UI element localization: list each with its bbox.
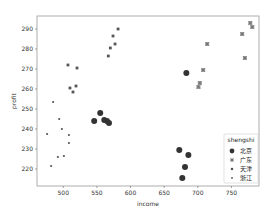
marker-dot — [50, 165, 52, 167]
y-tick-label: 220 — [22, 165, 34, 172]
x-axis-ticks: 500550600650700750 — [58, 186, 238, 196]
x-tick-label: 550 — [91, 189, 103, 196]
marker-circle — [97, 110, 103, 116]
y-axis-label: profit — [10, 92, 18, 109]
marker-small-square — [72, 91, 75, 94]
x-tick-label: 700 — [192, 189, 204, 196]
marker-circle — [185, 152, 191, 158]
marker-dot — [58, 118, 60, 120]
marker-circle — [230, 149, 235, 154]
marker-circle — [182, 164, 188, 170]
y-tick-label: 260 — [22, 85, 34, 92]
marker-dot — [52, 101, 54, 103]
y-tick-label: 290 — [22, 25, 34, 32]
x-axis-label: income — [137, 200, 159, 207]
y-tick-label: 230 — [22, 145, 34, 152]
legend-entry: 天津 — [240, 165, 252, 173]
y-axis-ticks: 220230240250260270280290 — [22, 25, 37, 172]
legend-entry: 北京 — [240, 147, 252, 155]
marker-small-square — [107, 55, 110, 58]
legend-entry: 广东 — [240, 156, 252, 164]
marker-dot — [61, 128, 63, 130]
legend-title: shengshi — [228, 136, 255, 144]
marker-dot — [46, 133, 48, 135]
marker-dot — [57, 156, 59, 158]
y-tick-label: 240 — [22, 125, 34, 132]
x-tick-label: 500 — [58, 189, 70, 196]
marker-small-square — [117, 28, 120, 31]
marker-circle — [179, 175, 185, 181]
marker-dot — [68, 142, 70, 144]
marker-circle — [176, 147, 182, 153]
scatter-chart: 500550600650700750 220230240250260270280… — [0, 0, 279, 213]
marker-small-square — [67, 64, 70, 67]
marker-circle — [106, 120, 112, 126]
y-tick-label: 270 — [22, 65, 34, 72]
x-tick-label: 600 — [125, 189, 137, 196]
marker-circle — [183, 70, 189, 76]
x-tick-label: 650 — [158, 189, 170, 196]
x-tick-label: 750 — [226, 189, 238, 196]
marker-small-square — [75, 85, 78, 88]
y-tick-label: 280 — [22, 45, 34, 52]
marker-small-square — [109, 47, 112, 50]
marker-small-square — [69, 87, 72, 90]
marker-small-square — [76, 67, 79, 70]
marker-small-square — [231, 168, 233, 170]
marker-dot — [68, 134, 70, 136]
marker-circle — [91, 118, 97, 124]
marker-small-square — [114, 43, 117, 46]
legend: shengshi 北京广东天津浙江 — [224, 134, 258, 183]
marker-dot — [231, 177, 233, 179]
marker-small-square — [112, 35, 115, 38]
marker-dot — [63, 155, 65, 157]
y-tick-label: 250 — [22, 105, 34, 112]
legend-entry: 浙江 — [240, 174, 252, 182]
